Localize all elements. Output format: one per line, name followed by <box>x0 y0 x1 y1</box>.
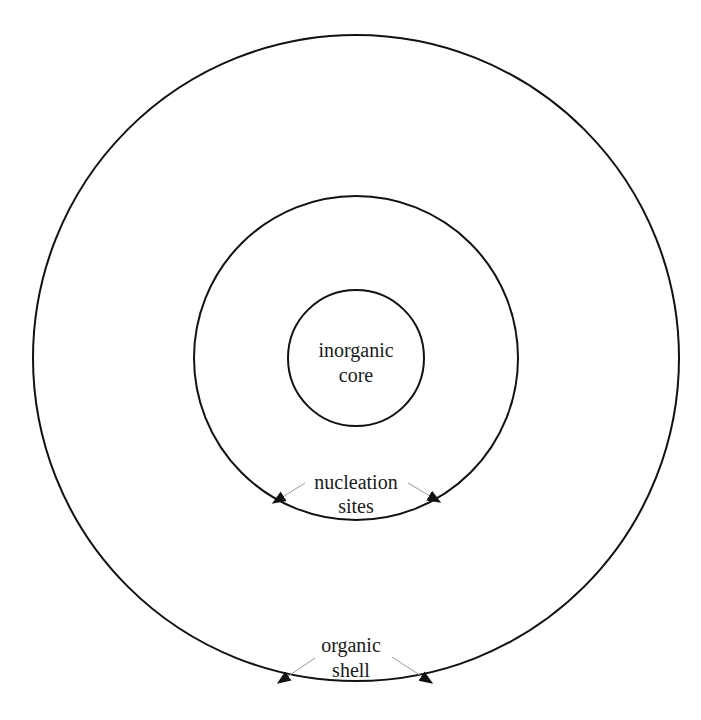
nucleation-arrow-left <box>273 483 305 503</box>
particle-diagram: inorganic core nucleation sites organic … <box>0 0 701 720</box>
core-label-line1: inorganic <box>318 339 393 362</box>
nucleation-label-line1: nucleation <box>314 471 397 493</box>
core-label-line2: core <box>339 364 374 386</box>
nucleation-label-line2: sites <box>338 495 374 517</box>
shell-arrow-left <box>278 658 315 683</box>
shell-label-line2: shell <box>332 659 370 681</box>
nucleation-arrow-right <box>408 483 440 502</box>
shell-label-line1: organic <box>321 634 381 657</box>
